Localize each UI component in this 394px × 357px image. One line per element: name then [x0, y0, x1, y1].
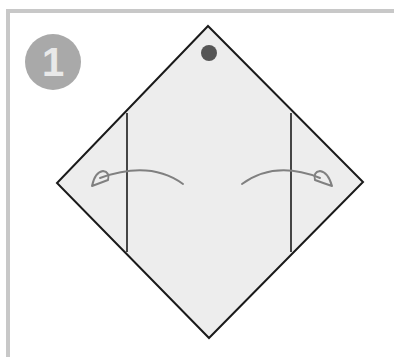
instruction-panel: 1: [0, 0, 394, 357]
marker-dot-icon: [201, 45, 217, 61]
origami-diagram: [0, 0, 394, 357]
